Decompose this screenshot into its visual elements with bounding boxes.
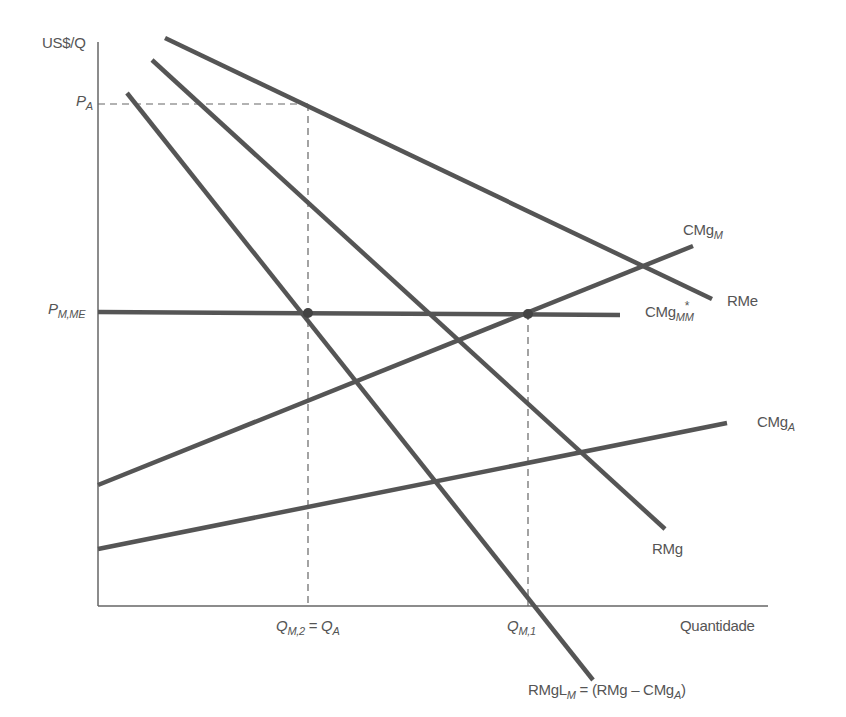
curve-label-rmg: RMg [652, 540, 683, 557]
cmga-curve [98, 423, 727, 549]
curve-label-cmgmm: CMgMM* [645, 303, 694, 320]
cmgm-sub: M [714, 229, 723, 241]
equilibrium-point-qm1 [523, 309, 533, 319]
rmgl-sub: M [567, 689, 576, 701]
curve-label-rme: RMe [727, 292, 758, 309]
rmgl-eq: = (RMg – CMg [576, 681, 674, 698]
quantity-label-qm2: QM,2 = QA [276, 617, 339, 634]
economics-diagram [0, 0, 846, 717]
pa-sub: A [86, 100, 93, 112]
quantity-label-qm1: QM,1 [507, 617, 536, 634]
cmgmm-curve [98, 312, 620, 315]
curve-label-rmgl: RMgLM = (RMg – CMgA) [528, 681, 686, 698]
curve-label-cmga: CMgA [757, 413, 795, 430]
qm2-main: Q [276, 617, 287, 634]
x-axis-label: Quantidade [680, 617, 755, 634]
qm2-sub: M,2 [287, 625, 304, 637]
cmgm-main: CMg [683, 221, 714, 238]
cmgmm-sub-wrap: MM* [676, 311, 694, 323]
rmgl-close: ) [681, 681, 686, 698]
qa-sub: A [332, 625, 339, 637]
qm2-eq: = [305, 617, 321, 634]
equilibrium-point-qm2 [303, 308, 313, 318]
qa-main: Q [321, 617, 332, 634]
cmga-sub: A [788, 421, 795, 433]
rmg-curve [152, 60, 665, 529]
pmme-sub: M,ME [58, 308, 86, 320]
rmgl-sub2: A [674, 689, 681, 701]
cmgmm-main: CMg [645, 303, 676, 320]
price-label-pa: PA [76, 92, 93, 109]
cmgmm-star: * [685, 299, 689, 313]
y-axis-label: US$/Q [42, 34, 86, 51]
rmgl-curve [127, 93, 593, 680]
curve-label-cmgm: CMgM [683, 221, 723, 238]
rme-curve [165, 38, 712, 299]
pmme-main: P [48, 300, 58, 317]
cmga-main: CMg [757, 413, 788, 430]
price-label-pmme: PM,ME [48, 300, 85, 317]
qm1-main: Q [507, 617, 518, 634]
rmgl-main: RMgL [528, 681, 567, 698]
qm1-sub: M,1 [518, 625, 535, 637]
pa-main: P [76, 92, 86, 109]
